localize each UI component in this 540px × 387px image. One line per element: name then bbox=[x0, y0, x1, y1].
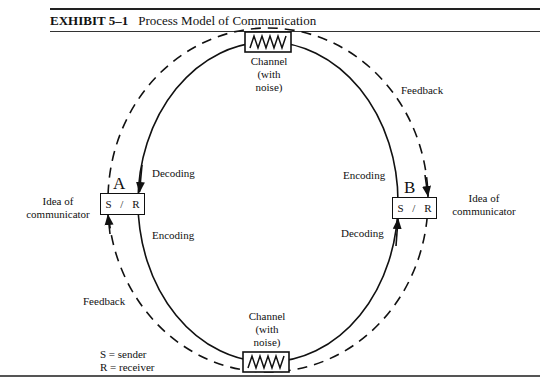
noise-zigzag-icon bbox=[243, 352, 289, 372]
b-encoding-label: Encoding bbox=[343, 169, 385, 182]
channel-text: noise) bbox=[248, 81, 290, 94]
legend-receiver: R = receiver bbox=[100, 361, 154, 374]
bottom-channel-label: Channel (with noise) bbox=[246, 310, 288, 349]
receiver-label: R bbox=[132, 198, 139, 210]
node-b-box: S / R bbox=[392, 197, 437, 219]
channel-text: noise) bbox=[246, 336, 288, 349]
feedback-arrow-to-a bbox=[108, 215, 110, 234]
node-b-letter: B bbox=[404, 178, 415, 198]
noise-zigzag-icon bbox=[245, 32, 291, 52]
idea-text: communicator bbox=[26, 208, 90, 221]
receiver-label: R bbox=[424, 202, 431, 214]
sender-label: S bbox=[105, 198, 111, 210]
node-a-box: S / R bbox=[100, 193, 145, 215]
idea-text: Idea of bbox=[26, 195, 90, 208]
idea-text: communicator bbox=[450, 205, 518, 218]
a-encoding-label: Encoding bbox=[152, 229, 194, 242]
top-channel-label: Channel (with noise) bbox=[248, 55, 290, 94]
legend-sender: S = sender bbox=[100, 348, 154, 361]
feedback-bottom-label: Feedback bbox=[83, 295, 125, 308]
legend: S = sender R = receiver bbox=[100, 348, 154, 374]
node-a-letter: A bbox=[113, 174, 125, 194]
b-decoding-label: Decoding bbox=[341, 227, 384, 240]
sender-label: S bbox=[397, 202, 403, 214]
channel-text: (with bbox=[246, 323, 288, 336]
node-b-idea-label: Idea of communicator bbox=[450, 192, 518, 218]
channel-text: Channel bbox=[248, 55, 290, 68]
channel-text: (with bbox=[248, 68, 290, 81]
separator: / bbox=[412, 202, 415, 214]
idea-text: Idea of bbox=[450, 192, 518, 205]
channel-text: Channel bbox=[246, 310, 288, 323]
feedback-top-label: Feedback bbox=[401, 84, 443, 97]
node-a-idea-label: Idea of communicator bbox=[26, 195, 90, 221]
a-decoding-label: Decoding bbox=[152, 167, 195, 180]
separator: / bbox=[120, 198, 123, 210]
bottom-rule bbox=[0, 375, 540, 377]
